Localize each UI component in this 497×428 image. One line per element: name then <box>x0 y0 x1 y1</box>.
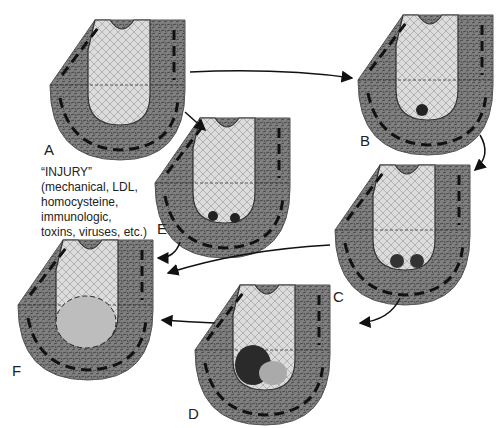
panel-label-e: E <box>157 220 167 237</box>
vessel-panel-b <box>358 15 493 155</box>
injury-line: immunologic, <box>41 210 147 225</box>
injury-line: (mechanical, LDL, <box>41 180 147 195</box>
panel-label-c: C <box>333 288 344 305</box>
vessel-panel-d <box>195 285 330 425</box>
panel-label-f: F <box>12 362 21 379</box>
injury-note: “INJURY” (mechanical, LDL, homocysteine,… <box>41 165 147 240</box>
vessel-panel-a <box>50 20 185 160</box>
injury-title: “INJURY” <box>41 165 147 180</box>
injury-line: toxins, viruses, etc.) <box>41 225 147 240</box>
arrow-e-to-f <box>158 242 180 258</box>
arrow-d-to-f <box>162 320 215 323</box>
panel-label-b: B <box>360 132 370 149</box>
panel-label-d: D <box>188 405 199 422</box>
vessel-panel-c <box>335 165 470 305</box>
vessel-panel-f <box>18 240 153 380</box>
arrow-a-to-b <box>190 71 352 78</box>
panel-label-a: A <box>44 141 54 158</box>
injury-line: homocysteine, <box>41 195 147 210</box>
arrow-b-to-c <box>475 135 485 170</box>
vessel-panel-e <box>155 118 290 258</box>
